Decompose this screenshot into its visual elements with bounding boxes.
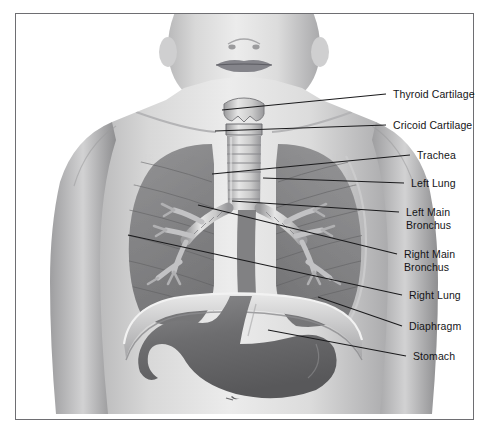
label-right-main-bronchus: Right Main Bronchus <box>404 248 455 273</box>
label-cricoid-cartilage: Cricoid Cartilage <box>393 119 472 132</box>
label-left-lung: Left Lung <box>411 177 456 190</box>
label-left-main-bronchus: Left Main Bronchus <box>406 206 451 231</box>
label-stomach: Stomach <box>413 350 455 363</box>
label-right-lung: Right Lung <box>409 289 461 302</box>
figure-root: Thyroid CartilageCricoid CartilageTrache… <box>0 0 491 433</box>
label-trachea: Trachea <box>417 149 456 162</box>
trachea-shape <box>227 136 261 210</box>
thyroid-cartilage-shape <box>224 98 264 122</box>
cricoid-cartilage-shape <box>226 124 262 135</box>
anatomy-illustration <box>16 14 473 419</box>
esophagus <box>237 210 256 296</box>
figure-frame: Thyroid CartilageCricoid CartilageTrache… <box>15 13 474 420</box>
label-thyroid-cartilage: Thyroid Cartilage <box>393 88 475 101</box>
label-diaphragm: Diaphragm <box>409 320 461 333</box>
